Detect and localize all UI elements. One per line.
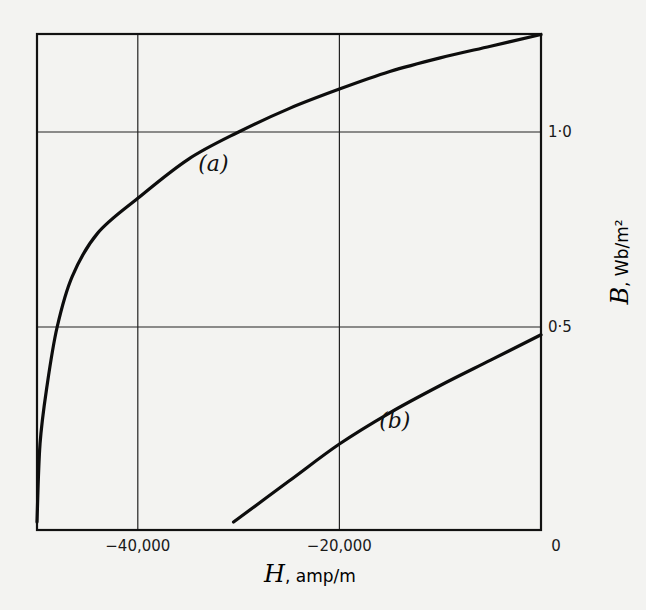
x-tick-label: −20,000 <box>307 537 372 555</box>
series-group <box>37 35 541 523</box>
x-axis-label: H, amp/m <box>263 560 356 588</box>
chart: −40,000−20,0000 0·51·0 (a)(b) H, amp/m B… <box>0 0 646 610</box>
y-axis-label: B, Wb/m² <box>606 219 634 305</box>
curve-labels: (a)(b) <box>198 151 410 433</box>
y-tick-label: 1·0 <box>548 123 572 141</box>
y-tick-labels: 0·51·0 <box>548 123 572 336</box>
x-tick-labels: −40,000−20,0000 <box>105 537 561 555</box>
x-tick-label: 0 <box>551 537 561 555</box>
x-tick-label: −40,000 <box>105 537 170 555</box>
y-tick-label: 0·5 <box>548 318 572 336</box>
curve-label-a: (a) <box>198 151 228 176</box>
curve-label-b: (b) <box>379 408 410 433</box>
curve-a <box>37 35 541 523</box>
